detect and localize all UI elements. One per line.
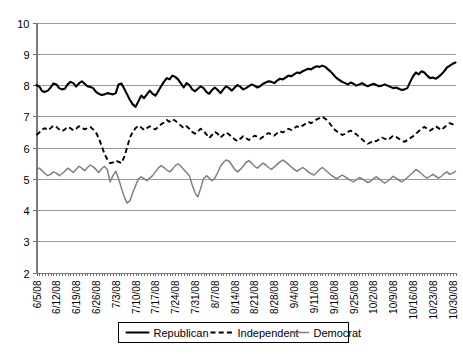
ytick-label: 10 — [17, 18, 29, 30]
ytick-label: 7 — [23, 111, 29, 123]
chart-container: 2345678910 6/5/086/12/086/19/086/26/087/… — [0, 0, 463, 354]
xtick-label: 10/2/08 — [368, 280, 379, 314]
series-line-republican — [37, 63, 456, 107]
xtick-label: 9/4/08 — [289, 280, 300, 308]
xtick-label: 10/30/08 — [448, 280, 459, 319]
ytick-label: 9 — [23, 49, 29, 61]
ytick-label: 3 — [23, 236, 29, 248]
ytick-labels-group: 2345678910 — [17, 18, 29, 280]
xtick-label: 10/16/08 — [408, 280, 419, 319]
xtick-label: 7/31/08 — [190, 280, 201, 314]
xtick-label: 6/12/08 — [51, 280, 62, 314]
ytick-label: 2 — [23, 268, 29, 280]
xtick-label: 10/9/08 — [388, 280, 399, 314]
xtick-label: 7/24/08 — [170, 280, 181, 314]
legend-group: RepublicanIndependentDemocrat — [119, 323, 362, 343]
line-chart: 2345678910 6/5/086/12/086/19/086/26/087/… — [0, 0, 463, 354]
xtick-label: 9/25/08 — [349, 280, 360, 314]
xtick-label: 10/23/08 — [428, 280, 439, 319]
series-line-democrat — [37, 160, 456, 203]
ytick-label: 8 — [23, 80, 29, 92]
legend-label-democrat: Democrat — [314, 327, 362, 339]
xtick-label: 6/5/08 — [32, 280, 43, 308]
legend-label-independent: Independent — [238, 327, 299, 339]
xtick-label: 7/3/08 — [111, 280, 122, 308]
xtick-label: 9/18/08 — [329, 280, 340, 314]
xtick-label: 8/14/08 — [230, 280, 241, 314]
xtick-label: 7/10/08 — [131, 280, 142, 314]
xtick-label: 6/26/08 — [91, 280, 102, 314]
ytick-label: 4 — [23, 205, 29, 217]
gridlines-group — [37, 24, 456, 242]
xtick-label: 9/11/08 — [309, 280, 320, 313]
ytick-label: 6 — [23, 143, 29, 155]
xtick-labels-group: 6/5/086/12/086/19/086/26/087/3/087/10/08… — [32, 280, 459, 319]
series-line-independent — [37, 117, 456, 163]
ytick-label: 5 — [23, 174, 29, 186]
legend-label-republican: Republican — [154, 327, 209, 339]
xtick-label: 8/7/08 — [210, 280, 221, 308]
xtick-label: 8/21/08 — [249, 280, 260, 314]
xtick-label: 8/28/08 — [269, 280, 280, 314]
xtick-label: 7/17/08 — [150, 280, 161, 314]
xtick-label: 6/19/08 — [71, 280, 82, 314]
series-group — [37, 63, 456, 204]
